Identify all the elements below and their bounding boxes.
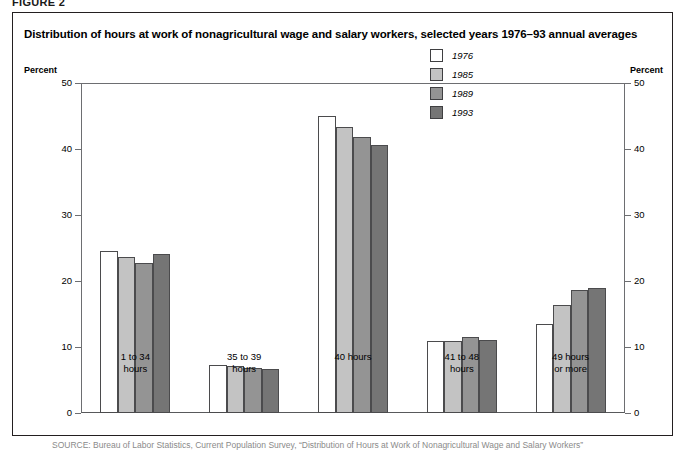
legend-label: 1976 — [452, 50, 473, 61]
x-category-label-line: hours — [190, 363, 299, 375]
y-tick-label-right-50: 50 — [634, 78, 658, 88]
y-tick-label-right-30: 30 — [634, 210, 658, 220]
bar — [336, 127, 354, 413]
bar — [318, 116, 336, 413]
bar — [153, 254, 171, 413]
y-tick-label-right-20: 20 — [634, 276, 658, 286]
y-tick-right-30 — [625, 215, 631, 216]
x-category-label: 1 to 34hours — [81, 351, 190, 375]
x-category-label-line: 49 hours — [516, 351, 625, 363]
figure-panel: Distribution of hours at work of nonagri… — [12, 12, 673, 436]
legend-item: 1985 — [430, 65, 473, 84]
source-note: SOURCE: Bureau of Labor Statistics, Curr… — [52, 440, 652, 450]
legend-item: 1976 — [430, 46, 473, 65]
y-tick-label-right-40: 40 — [634, 144, 658, 154]
x-category-label-line: 41 to 48 — [407, 351, 516, 363]
bar — [371, 145, 389, 413]
x-category-label-line: 1 to 34 — [81, 351, 190, 363]
y-tick-label-left-40: 40 — [48, 144, 72, 154]
figure-number: FIGURE 2 — [12, 0, 65, 6]
x-category-label-line: or more — [516, 363, 625, 375]
bar — [462, 337, 480, 413]
y-tick-label-left-50: 50 — [48, 78, 72, 88]
y-axis-title-left: Percent — [24, 65, 57, 75]
x-category-label: 40 hours — [299, 351, 408, 363]
x-category-label: 41 to 48hours — [407, 351, 516, 375]
y-tick-label-left-10: 10 — [48, 342, 72, 352]
chart-title: Distribution of hours at work of nonagri… — [24, 27, 644, 41]
y-tick-right-20 — [625, 281, 631, 282]
legend-label: 1985 — [452, 69, 473, 80]
bar — [135, 263, 153, 413]
x-category-label-line: hours — [407, 363, 516, 375]
y-tick-right-50 — [625, 83, 631, 84]
x-category-label: 35 to 39hours — [190, 351, 299, 375]
y-axis-title-right: Percent — [630, 65, 663, 75]
y-tick-left-0 — [75, 413, 81, 414]
y-tick-label-left-30: 30 — [48, 210, 72, 220]
x-category-label-line: hours — [81, 363, 190, 375]
y-tick-label-left-20: 20 — [48, 276, 72, 286]
y-tick-right-10 — [625, 347, 631, 348]
bar-group — [318, 83, 388, 413]
y-tick-right-40 — [625, 149, 631, 150]
x-category-label: 49 hoursor more — [516, 351, 625, 375]
y-tick-right-0 — [625, 413, 631, 414]
legend-swatch-1985 — [430, 68, 443, 81]
x-category-label-line: 35 to 39 — [190, 351, 299, 363]
y-tick-label-right-10: 10 — [634, 342, 658, 352]
y-tick-label-left-0: 0 — [48, 408, 72, 418]
legend-swatch-1976 — [430, 49, 443, 62]
y-tick-label-right-0: 0 — [634, 408, 658, 418]
bar — [118, 257, 136, 413]
bar — [100, 251, 118, 413]
bar — [353, 137, 371, 413]
bar — [262, 369, 280, 413]
x-category-label-line: 40 hours — [299, 351, 408, 363]
